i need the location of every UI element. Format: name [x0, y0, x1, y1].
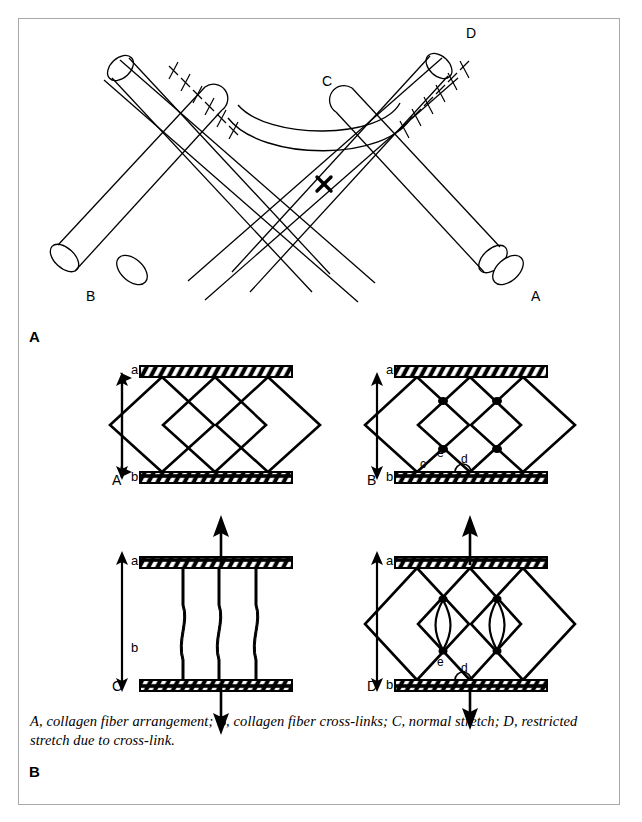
- subpanel-a-plate-label-a: a: [131, 362, 138, 377]
- subpanel-letter-B: B: [367, 472, 376, 488]
- subpanel-d-plate-label-b: b: [386, 677, 393, 692]
- figure-panel-letter-b: B: [29, 763, 40, 780]
- subpanel-letter-C: C: [112, 678, 122, 694]
- subpanel-c-plate-label-b: b: [131, 640, 138, 655]
- subpanel-c-plate-label-a: a: [131, 553, 138, 568]
- subpanel-d-plate-label-a: a: [386, 553, 393, 568]
- subpanel-letter-D: D: [367, 678, 377, 694]
- subpanel-b-plate-label-b: b: [386, 469, 393, 484]
- figure-caption: A, collagen fiber arrangement; B, collag…: [30, 712, 596, 750]
- panel-a-label-A: A: [531, 288, 540, 304]
- panel-a-label-D: D: [466, 25, 476, 41]
- subpanel-b-node-label-e: e: [437, 446, 444, 460]
- subpanel-d-node-label-e: e: [437, 655, 444, 669]
- figure-panel-letter-a: A: [29, 328, 40, 345]
- subpanel-a-plate-label-b: b: [131, 469, 138, 484]
- subpanel-b-node-label-d: d: [461, 452, 468, 466]
- figure-root: B A C D A B C D a b a b a b a b c e d e …: [0, 0, 642, 822]
- subpanel-d-node-label-d: d: [461, 661, 468, 675]
- subpanel-b-plate-label-a: a: [386, 362, 393, 377]
- subpanel-b-node-label-c: c: [420, 457, 426, 471]
- panel-a-label-C: C: [322, 73, 332, 89]
- subpanel-letter-A: A: [112, 472, 121, 488]
- figure-border: [18, 18, 620, 805]
- panel-a-label-B: B: [86, 288, 95, 304]
